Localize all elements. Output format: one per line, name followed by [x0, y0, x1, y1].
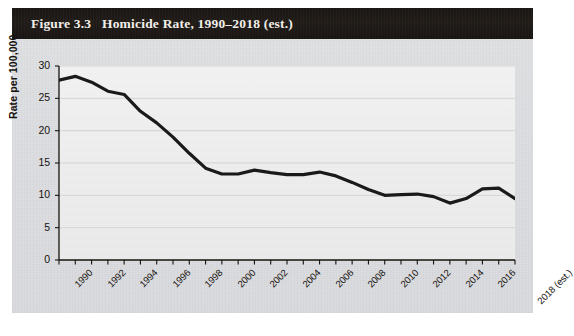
x-tick-label: 1990 [72, 267, 94, 289]
x-tick-label: 2010 [398, 267, 420, 289]
figure-title-bar: Figure 3.3 Homicide Rate, 1990–2018 (est… [12, 8, 533, 39]
y-tick-label: 10 [28, 188, 50, 200]
x-tick-label: 2008 [365, 267, 387, 289]
plot-wrapper: Rate per 100,000 051015202530 1990199219… [12, 39, 533, 313]
y-axis-title: Rate per 100,000 [7, 35, 19, 120]
y-tick-label: 20 [28, 124, 50, 136]
x-tick-label: 1994 [137, 267, 159, 289]
y-tick-label: 15 [28, 156, 50, 168]
y-tick-label: 5 [28, 221, 50, 233]
y-tick-label: 25 [28, 91, 50, 103]
x-tick-label: 2002 [267, 267, 289, 289]
x-tick-label: 2018 (est.) [535, 267, 574, 306]
y-tick-label: 0 [28, 253, 50, 265]
x-tick-label: 2000 [235, 267, 257, 289]
line-chart-svg [59, 66, 515, 260]
x-tick-label: 1996 [170, 267, 192, 289]
figure-title: Figure 3.3 Homicide Rate, 1990–2018 (est… [31, 16, 293, 32]
x-tick-label: 2014 [463, 267, 485, 289]
x-tick-label: 2012 [430, 267, 452, 289]
x-tick-label: 2004 [300, 267, 322, 289]
x-tick-label: 2006 [333, 267, 355, 289]
x-tick-label: 2016 [495, 267, 517, 289]
x-tick-label: 1992 [105, 267, 127, 289]
plot-area [59, 66, 515, 260]
homicide-rate-line [59, 76, 515, 203]
y-tick-label: 30 [28, 59, 50, 71]
x-tick-label: 1998 [202, 267, 224, 289]
